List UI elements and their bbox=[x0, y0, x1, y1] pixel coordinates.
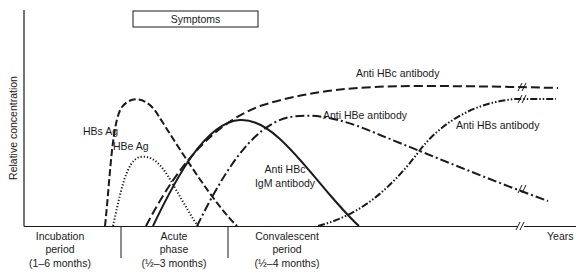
y-axis-label: Relative concentration bbox=[7, 76, 19, 180]
svg-text:phase: phase bbox=[160, 243, 189, 255]
curve-hbs-ag bbox=[105, 99, 237, 226]
label-hbe-ag: HBe Ag bbox=[113, 140, 149, 152]
phase-acute: Acute phase (½–3 months) bbox=[142, 230, 207, 269]
symptoms-box: Symptoms bbox=[133, 11, 258, 27]
svg-text:(½–4 months): (½–4 months) bbox=[255, 257, 320, 269]
x-axis-years-label: Years bbox=[547, 230, 573, 242]
label-anti-hbc-igm-line2: IgM antibody bbox=[255, 177, 316, 189]
svg-text:period: period bbox=[45, 243, 74, 255]
svg-text:(½–3 months): (½–3 months) bbox=[142, 257, 207, 269]
label-anti-hbs: Anti HBs antibody bbox=[456, 119, 540, 131]
svg-text:Convalescent: Convalescent bbox=[255, 230, 319, 242]
svg-text:Incubation: Incubation bbox=[36, 230, 85, 242]
svg-text:Acute: Acute bbox=[161, 230, 188, 242]
svg-text:period: period bbox=[272, 243, 301, 255]
phase-incubation: Incubation period (1–6 months) bbox=[29, 230, 91, 269]
label-hbs-ag: HBs Ag bbox=[83, 125, 118, 137]
label-anti-hbe: Anti HBe antibody bbox=[323, 109, 408, 121]
symptoms-label: Symptoms bbox=[171, 13, 221, 25]
label-anti-hbc: Anti HBc antibody bbox=[356, 67, 440, 79]
x-axis-break-icon bbox=[516, 222, 524, 231]
curve-anti-hbe bbox=[197, 116, 548, 226]
phase-convalescent: Convalescent period (½–4 months) bbox=[255, 230, 320, 269]
label-anti-hbc-igm-line1: Anti HBc bbox=[265, 163, 306, 175]
hepatitis-b-serology-diagram: Symptoms Relative concentration Incubati… bbox=[0, 0, 582, 276]
svg-text:(1–6 months): (1–6 months) bbox=[29, 257, 91, 269]
